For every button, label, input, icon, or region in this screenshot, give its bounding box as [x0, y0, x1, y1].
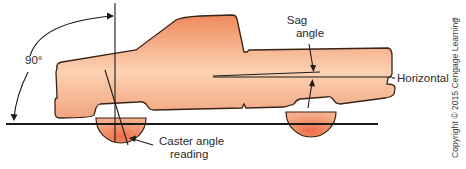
caster-sag-diagram: 90° Sag angle Horizontal Caster angle re…: [0, 0, 466, 169]
right-angle-arc: [30, 16, 113, 56]
horizontal-label: Horizontal: [397, 72, 449, 84]
registered-mark: ®: [452, 17, 457, 23]
right-angle-arc-lower: [14, 72, 28, 118]
copyright-text: Copyright © 2015 Cengage Learning: [450, 18, 460, 158]
arrowhead-bottom: [11, 114, 18, 121]
sag-angle-label-line1: Sag: [287, 14, 307, 26]
right-angle-label: 90°: [25, 54, 42, 66]
caster-label-line1: Caster angle: [159, 135, 224, 147]
arrowhead-top: [107, 13, 114, 20]
truck-body: [55, 15, 395, 118]
caster-label-line2: reading: [170, 148, 208, 160]
caster-pointer-line: [133, 139, 153, 145]
sag-angle-label-line2: angle: [296, 27, 324, 39]
